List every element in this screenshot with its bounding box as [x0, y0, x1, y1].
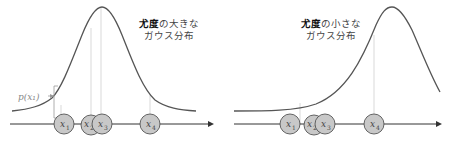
svg-text:x: x [286, 119, 291, 129]
svg-text:3: 3 [104, 124, 108, 131]
svg-text:3: 3 [327, 124, 331, 131]
title-low-likelihood: 尤度の小さな ガウス分布 [286, 18, 376, 42]
svg-text:x: x [84, 119, 89, 129]
svg-text:x: x [98, 119, 103, 129]
panel-high-likelihood: x1 x2 x3 x4 p(x₁) 尤度の大きな ガウス分布 [0, 0, 226, 141]
axis-arrow-icon [208, 121, 214, 127]
data-point-x4: x4 [140, 114, 160, 134]
svg-text:x: x [60, 119, 65, 129]
svg-text:x: x [370, 119, 375, 129]
svg-text:x: x [321, 119, 326, 129]
data-point-x3: x3 [315, 114, 335, 134]
annotation-px1: p(x₁) [18, 91, 39, 103]
title-high-likelihood: 尤度の大きな ガウス分布 [124, 18, 214, 42]
axis-arrow-icon [436, 121, 442, 127]
svg-text:4: 4 [152, 124, 156, 131]
title-bold: 尤度 [301, 18, 321, 29]
svg-text:1: 1 [292, 124, 296, 131]
data-point-x1: x1 [54, 114, 74, 134]
svg-text:1: 1 [66, 124, 70, 131]
svg-text:x: x [146, 119, 151, 129]
svg-text:x: x [307, 119, 312, 129]
panel-low-likelihood: x1 x2 x3 x4 尤度の小さな ガウス分布 [226, 0, 452, 141]
data-point-x4: x4 [364, 114, 384, 134]
data-point-x3: x3 [92, 114, 112, 134]
title-bold: 尤度 [139, 18, 159, 29]
svg-text:4: 4 [376, 124, 380, 131]
data-point-x1: x1 [280, 114, 300, 134]
